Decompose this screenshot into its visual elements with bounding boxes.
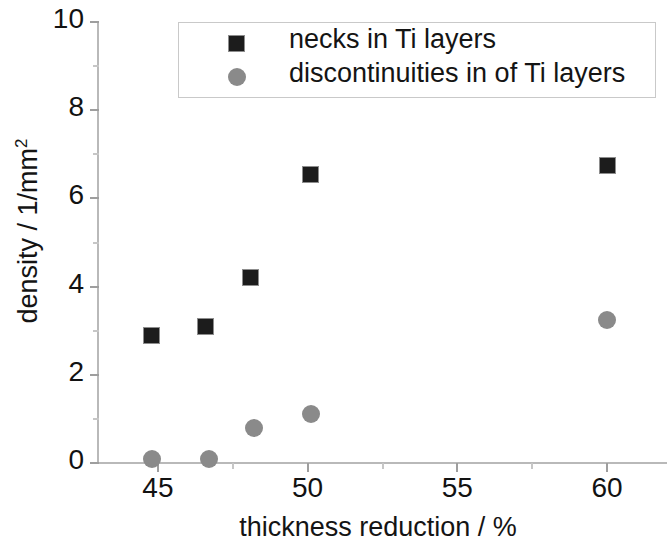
x-tick-55: [456, 463, 458, 472]
x-tick-label-55: 55: [417, 472, 497, 504]
y-tick-label-8: 8: [4, 91, 84, 123]
y-minor-tick: [93, 418, 99, 420]
y-tick-label-4: 4: [4, 268, 84, 300]
x-tick-label-50: 50: [268, 472, 348, 504]
legend-label-necks: necks in Ti layers: [289, 24, 496, 55]
data-point-discontinuities-0: [143, 450, 161, 468]
y-minor-tick: [93, 242, 99, 244]
data-point-necks-4: [599, 157, 616, 174]
y-tick-2: [90, 374, 99, 376]
y-minor-tick: [93, 153, 99, 155]
y-tick-label-6: 6: [4, 179, 84, 211]
legend-entry-discontinuities: discontinuities in of Ti layers: [179, 60, 655, 94]
square-marker-icon: [228, 35, 245, 52]
legend-label-discontinuities: discontinuities in of Ti layers: [289, 58, 625, 89]
y-tick-4: [90, 286, 99, 288]
x-tick-label-60: 60: [567, 472, 647, 504]
x-tick-label-45: 45: [118, 472, 198, 504]
y-tick-label-10: 10: [4, 3, 84, 35]
y-tick-8: [90, 109, 99, 111]
y-axis-title-superscript: 2: [12, 138, 31, 147]
data-point-discontinuities-2: [245, 419, 263, 437]
y-axis-title: density / 1/mm2: [6, 0, 50, 466]
data-point-necks-3: [302, 166, 319, 183]
circle-marker-icon: [228, 68, 246, 86]
data-point-necks-2: [242, 269, 259, 286]
legend-entry-necks: necks in Ti layers: [179, 26, 655, 60]
x-tick-60: [606, 463, 608, 472]
y-minor-tick: [93, 65, 99, 67]
y-tick-10: [90, 21, 99, 23]
x-minor-tick: [382, 463, 384, 469]
y-tick-label-2: 2: [4, 356, 84, 388]
legend: necks in Ti layers discontinuities in of…: [178, 22, 656, 98]
y-tick-label-0: 0: [4, 444, 84, 476]
data-point-discontinuities-4: [598, 311, 616, 329]
data-point-discontinuities-3: [302, 405, 320, 423]
x-axis-title: thickness reduction / %: [98, 512, 658, 543]
scatter-plot-figure: density / 1/mm2 thickness reduction / % …: [0, 0, 667, 556]
y-minor-tick: [93, 330, 99, 332]
data-point-discontinuities-1: [200, 450, 218, 468]
x-tick-50: [307, 463, 309, 472]
data-point-necks-0: [143, 327, 160, 344]
y-tick-0: [90, 462, 99, 464]
x-minor-tick: [232, 463, 234, 469]
x-minor-tick: [531, 463, 533, 469]
y-tick-6: [90, 197, 99, 199]
data-point-necks-1: [197, 318, 214, 335]
